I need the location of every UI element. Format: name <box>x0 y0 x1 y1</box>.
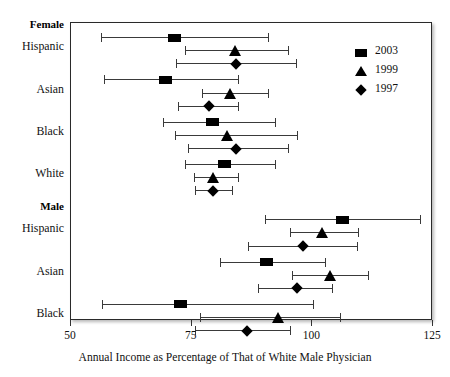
interval-row <box>70 172 432 183</box>
legend-label: 1999 <box>375 63 398 75</box>
data-point-marker-square <box>168 34 181 42</box>
data-point-marker-diamond <box>241 325 252 336</box>
ci-high-cap <box>368 271 369 280</box>
interval-row <box>70 325 432 336</box>
ci-low-cap <box>176 59 177 68</box>
data-point-marker-diamond <box>230 58 241 69</box>
ci-low-cap <box>163 118 164 127</box>
data-point-marker-diamond <box>291 283 302 294</box>
ci-low-cap <box>185 160 186 169</box>
legend-item-1999: 1999 <box>355 63 427 79</box>
data-point-marker-triangle <box>207 172 219 183</box>
ci-high-cap <box>290 326 291 335</box>
data-point-marker-square <box>218 160 231 168</box>
data-point-marker-triangle <box>229 45 241 56</box>
x-tick <box>432 320 433 326</box>
interval-row <box>70 214 432 225</box>
ci-low-cap <box>102 300 103 309</box>
y-category-label-asian: Asian <box>36 82 64 97</box>
ci-low-cap <box>248 242 249 251</box>
ci-high-cap <box>358 228 359 237</box>
data-point-marker-triangle <box>221 130 233 141</box>
ci-high-cap <box>275 118 276 127</box>
forest-plot-figure: FemaleHispanicAsianBlackWhiteMaleHispani… <box>0 0 450 377</box>
data-point-marker-triangle <box>316 227 328 238</box>
ci-low-cap <box>292 271 293 280</box>
interval-row <box>70 117 432 128</box>
ci-high-cap <box>268 33 269 42</box>
y-category-label-asian: Asian <box>36 264 64 279</box>
x-tick-label: 125 <box>423 329 440 341</box>
ci-low-cap <box>104 75 105 84</box>
y-category-label-black: Black <box>36 306 64 321</box>
ci-low-cap <box>195 186 196 195</box>
interval-row <box>70 312 432 323</box>
interval-row <box>70 32 432 43</box>
ci-low-cap <box>290 228 291 237</box>
data-point-marker-square <box>174 300 187 308</box>
interval-row <box>70 227 432 238</box>
x-tick <box>70 320 71 326</box>
x-tick-label: 50 <box>64 329 76 341</box>
ci-low-cap <box>265 215 266 224</box>
legend-marker-diamond <box>355 84 366 95</box>
confidence-interval-line <box>102 304 313 305</box>
ci-high-cap <box>420 215 421 224</box>
ci-low-cap <box>220 258 221 267</box>
confidence-interval-line <box>200 317 340 318</box>
legend-marker-triangle <box>355 66 367 76</box>
y-category-label-white: White <box>35 166 64 181</box>
legend-item-2003: 2003 <box>355 44 427 60</box>
ci-high-cap <box>238 173 239 182</box>
y-group-label-female: Female <box>30 18 64 30</box>
interval-row <box>70 143 432 154</box>
data-point-marker-triangle <box>272 312 284 323</box>
data-point-marker-triangle <box>224 88 236 99</box>
interval-row <box>70 270 432 281</box>
chart-legend: 200319991997 <box>355 44 427 101</box>
x-axis-title: Annual Income as Percentage of That of W… <box>0 351 450 364</box>
data-point-marker-square <box>206 118 219 126</box>
data-point-marker-square <box>260 258 273 266</box>
interval-row <box>70 185 432 196</box>
ci-low-cap <box>258 284 259 293</box>
ci-high-cap <box>232 186 233 195</box>
x-tick-label: 100 <box>303 329 320 341</box>
interval-row <box>70 101 432 112</box>
ci-high-cap <box>268 89 269 98</box>
x-tick <box>311 320 312 326</box>
data-point-marker-diamond <box>297 240 308 251</box>
y-category-label-black: Black <box>36 124 64 139</box>
ci-high-cap <box>238 75 239 84</box>
data-point-marker-square <box>336 216 349 224</box>
interval-row <box>70 283 432 294</box>
confidence-interval-line <box>101 37 268 38</box>
ci-low-cap <box>178 102 179 111</box>
y-group-label-male: Male <box>40 200 64 212</box>
ci-high-cap <box>332 284 333 293</box>
ci-high-cap <box>340 313 341 322</box>
data-point-marker-diamond <box>230 143 241 154</box>
interval-row <box>70 130 432 141</box>
confidence-interval-line <box>175 135 297 136</box>
ci-high-cap <box>288 46 289 55</box>
interval-row <box>70 241 432 252</box>
y-category-label-hispanic: Hispanic <box>22 39 64 54</box>
legend-label: 1997 <box>375 82 398 94</box>
interval-row <box>70 257 432 268</box>
ci-high-cap <box>288 144 289 153</box>
ci-low-cap <box>175 131 176 140</box>
legend-label: 2003 <box>375 44 398 56</box>
ci-low-cap <box>188 144 189 153</box>
x-tick <box>191 320 192 326</box>
data-point-marker-square <box>159 76 172 84</box>
legend-item-1997: 1997 <box>355 82 427 98</box>
x-tick-label: 75 <box>185 329 197 341</box>
ci-low-cap <box>202 89 203 98</box>
ci-low-cap <box>101 33 102 42</box>
ci-low-cap <box>200 313 201 322</box>
legend-marker-square <box>355 49 367 57</box>
ci-low-cap <box>194 173 195 182</box>
ci-high-cap <box>296 59 297 68</box>
interval-row <box>70 159 432 170</box>
